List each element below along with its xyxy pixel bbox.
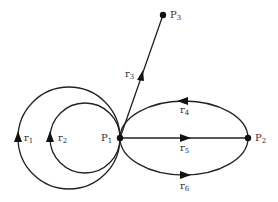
label-r5: r5: [180, 142, 189, 155]
label-p2: P2: [255, 132, 266, 145]
label-r2: r2: [58, 132, 67, 145]
node-p1: [117, 135, 123, 141]
label-r1: r1: [24, 132, 33, 145]
node-p3: [160, 12, 166, 18]
label-p3: P3: [170, 9, 181, 22]
arrow-up-icon: [46, 131, 54, 142]
graph-diagram: P1 P2 P3 r1 r2 r3 r4 r5 r6: [0, 0, 278, 202]
arrow-right-icon: [180, 171, 191, 179]
arrow-right-icon: [180, 134, 191, 142]
label-p1: P1: [101, 132, 112, 145]
label-r6: r6: [180, 180, 190, 193]
arrow-up-icon: [14, 131, 22, 142]
label-r3: r3: [125, 68, 134, 81]
arrow-up-icon: [137, 70, 144, 81]
node-p2: [245, 135, 251, 141]
label-r4: r4: [180, 104, 190, 117]
